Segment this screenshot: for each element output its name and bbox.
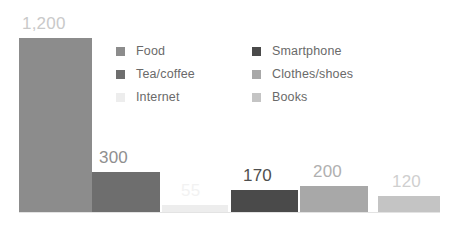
legend-label: Food <box>136 45 165 58</box>
legend-swatch-icon <box>116 93 125 102</box>
legend-label: Clothes/shoes <box>272 68 353 81</box>
bar-value-label: 1,200 <box>22 15 66 32</box>
bar-value-label: 170 <box>243 167 272 184</box>
bar <box>92 172 160 212</box>
legend-swatch-icon <box>116 47 125 56</box>
bar <box>231 190 298 212</box>
bar <box>19 38 92 212</box>
legend-item[interactable]: Food <box>116 45 252 58</box>
legend-item[interactable]: Internet <box>116 91 252 104</box>
legend-item[interactable]: Books <box>252 91 446 104</box>
chart-legend: FoodSmartphoneTea/coffeeClothes/shoesInt… <box>116 40 446 109</box>
legend-label: Tea/coffee <box>136 68 195 81</box>
legend-label: Books <box>272 91 308 104</box>
bar <box>300 186 368 212</box>
legend-label: Smartphone <box>272 45 342 58</box>
legend-item[interactable]: Smartphone <box>252 45 446 58</box>
bar-value-label: 120 <box>392 173 421 190</box>
legend-label: Internet <box>136 91 180 104</box>
bar-value-label: 300 <box>99 149 128 166</box>
legend-swatch-icon <box>252 47 261 56</box>
bar-chart: 1,20030055170200120 FoodSmartphoneTea/co… <box>0 0 460 227</box>
bar-value-label: 200 <box>313 163 342 180</box>
plot-area: 1,20030055170200120 <box>0 0 460 227</box>
legend-swatch-icon <box>252 93 261 102</box>
bar-value-label: 55 <box>181 182 200 199</box>
bar <box>378 196 440 212</box>
legend-item[interactable]: Clothes/shoes <box>252 68 446 81</box>
axis-baseline <box>19 212 440 213</box>
legend-swatch-icon <box>116 70 125 79</box>
legend-swatch-icon <box>252 70 261 79</box>
bar <box>162 205 228 212</box>
legend-item[interactable]: Tea/coffee <box>116 68 252 81</box>
